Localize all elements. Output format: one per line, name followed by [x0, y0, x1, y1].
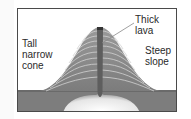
label-thick-lava: Thick lava [135, 14, 159, 36]
page-margin [0, 0, 14, 119]
label-steep-slope: Steep slope [145, 45, 171, 67]
crater [97, 27, 103, 30]
label-tall-narrow-cone: Tall narrow cone [22, 38, 53, 71]
central-vent [97, 29, 103, 97]
